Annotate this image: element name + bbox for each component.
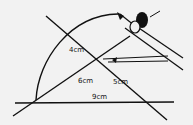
- base-line: [15, 102, 174, 103]
- geometry-diagram: [0, 0, 193, 125]
- compass-arc: [36, 14, 118, 100]
- label-6cm: 6cm: [78, 78, 93, 85]
- descending-line: [46, 16, 167, 120]
- label-4cm: 4cm: [69, 47, 84, 54]
- label-9cm: 9cm: [92, 94, 107, 101]
- pointer-line-top: [103, 56, 168, 59]
- pointer-line-bottom: [108, 61, 168, 62]
- label-5cm: 5cm: [113, 79, 128, 86]
